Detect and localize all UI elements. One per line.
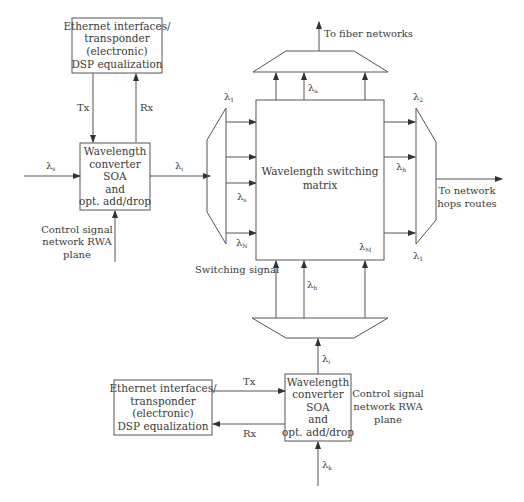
box-line: opt. add/drop — [79, 195, 151, 207]
bottom-wavelength-converter-box: Wavelength converter SOA and opt. add/dr… — [282, 374, 354, 441]
matrix-line: Wavelength switching — [261, 165, 378, 177]
box-line: opt. add/drop — [282, 426, 354, 438]
output-multiplexer — [416, 108, 436, 244]
top-multiplexer — [253, 51, 388, 72]
bottom-tx-label: Tx — [243, 376, 256, 387]
box-line: SOA — [103, 170, 127, 182]
mux-lambda-2: λ2 — [413, 91, 423, 103]
top-ethernet-transponder-box: Ethernet interfaces/ transponder (electr… — [63, 18, 171, 73]
box-line: converter — [89, 158, 142, 170]
box-line: and — [308, 413, 328, 425]
box-line: DSP equalization — [117, 420, 208, 432]
bottom-ethernet-transponder-box: Ethernet interfaces/ transponder (electr… — [109, 380, 217, 435]
to-network-hops-line: hops routes — [437, 198, 496, 209]
bottom-control-line: Control signal — [352, 388, 424, 399]
to-network-hops-line: To network — [439, 185, 497, 196]
left-wavelength-converter-box: Wavelength converter SOA and opt. add/dr… — [79, 143, 151, 210]
top-rx-label: Rx — [140, 102, 154, 113]
bottom-output-lambda: λi — [322, 353, 330, 365]
box-line: converter — [292, 388, 345, 400]
left-control-line: network RWA — [42, 236, 112, 247]
matrix-line: matrix — [303, 179, 338, 191]
demux-lambda-n: λN — [236, 237, 248, 249]
optical-switching-node-diagram: Ethernet interfaces/ transponder (electr… — [0, 0, 524, 502]
top-mux-lambda-a: λa — [308, 82, 318, 94]
demux-lambda-1: λ1 — [224, 91, 234, 103]
left-input-lambda: λs — [46, 160, 55, 172]
box-line: transponder — [130, 395, 196, 407]
bottom-input-lambda: λk — [322, 459, 332, 471]
bottom-rx-label: Rx — [243, 428, 257, 439]
box-line: (electronic) — [132, 407, 193, 419]
left-output-lambda: λi — [175, 160, 183, 172]
box-line: Wavelength — [84, 145, 147, 157]
box-line: Ethernet interfaces/ — [109, 382, 217, 394]
box-line: Ethernet interfaces/ — [63, 20, 171, 32]
mux-lambda-1: λ1 — [413, 250, 423, 262]
box-line: and — [105, 183, 125, 195]
box-line: DSP equalization — [71, 58, 162, 70]
box-line: Wavelength — [287, 376, 350, 388]
box-line: transponder — [84, 32, 150, 44]
switching-signal-label: Switching signal — [195, 264, 279, 275]
top-tx-label: Tx — [77, 102, 90, 113]
bottom-multiplexer — [252, 318, 388, 338]
left-control-line: plane — [63, 249, 91, 260]
bottom-mux-lambda-h: λh — [307, 279, 317, 291]
wavelength-switching-matrix: Wavelength switching matrix λM — [256, 100, 384, 260]
left-control-line: Control signal — [41, 224, 113, 235]
bottom-control-line: plane — [374, 414, 402, 425]
box-line: SOA — [306, 401, 330, 413]
to-fiber-networks-label: To fiber networks — [324, 28, 413, 39]
box-line: (electronic) — [86, 45, 147, 57]
demux-lambda-s: λs — [237, 191, 246, 203]
bottom-control-line: network RWA — [353, 401, 423, 412]
mux-lambda-h: λh — [396, 161, 406, 173]
